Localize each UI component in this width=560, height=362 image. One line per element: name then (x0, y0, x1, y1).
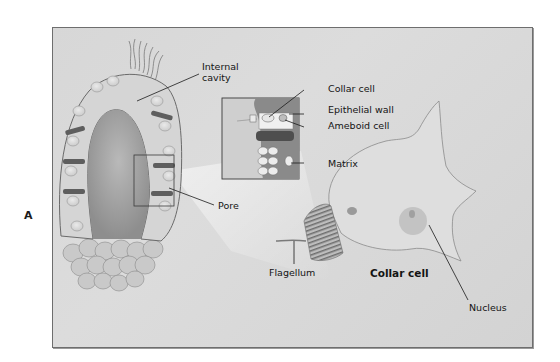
label-internal-cavity-line2: cavity (202, 72, 231, 83)
label-flagellum: Flagellum (269, 267, 315, 278)
label-matrix: Matrix (328, 158, 358, 169)
label-collar-cell-title: Collar cell (370, 268, 429, 279)
label-internal-cavity-line1: Internal (202, 61, 239, 72)
sponge-illustration (53, 28, 532, 347)
wall-inset (222, 98, 299, 179)
label-pore: Pore (218, 200, 239, 211)
flagellum (276, 240, 306, 241)
sponge-base-cells (63, 239, 163, 291)
label-internal-cavity: Internal cavity (202, 61, 239, 83)
label-nucleus: Nucleus (469, 302, 507, 313)
label-epithelial-wall: Epithelial wall (328, 104, 394, 115)
illustration-frame: Internal cavity Collar cell Epithelial w… (52, 27, 533, 348)
label-collar-cell-inset: Collar cell (328, 83, 375, 94)
label-ameboid-cell: Ameboid cell (328, 120, 389, 131)
vacuole (347, 207, 357, 215)
panel-letter: A (24, 209, 33, 222)
